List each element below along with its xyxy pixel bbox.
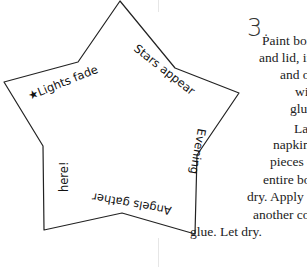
instruction-line: pieces over xyxy=(270,153,307,170)
instruction-line: entire box. Let xyxy=(263,171,307,188)
instruction-line: Paint box xyxy=(262,32,307,49)
star-template: ★Lights fade Stars appear Evening Angels… xyxy=(0,0,240,240)
instruction-line: dry. Apply xyxy=(247,188,304,205)
instruction-line: napkin xyxy=(273,136,307,153)
instruction-line: and out, xyxy=(280,66,307,83)
instruction-line: with xyxy=(295,83,307,100)
star-phrase-5: here! xyxy=(57,161,71,192)
instruction-line: glue. xyxy=(290,100,307,117)
instruction-line: glue. Let dry. xyxy=(190,223,262,240)
instruction-line: and lid, inside xyxy=(259,49,307,66)
instruction-line: Layer torn xyxy=(294,120,307,137)
instruction-line: another coat of xyxy=(253,206,307,223)
column-divider-bottom xyxy=(158,238,159,267)
